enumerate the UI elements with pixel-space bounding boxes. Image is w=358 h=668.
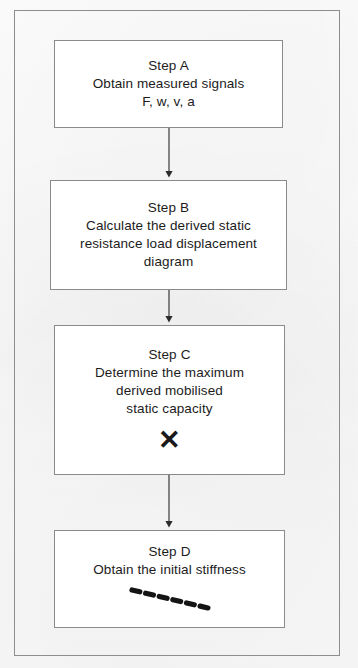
step-box-b: Step B Calculate the derived static resi…	[50, 180, 287, 290]
step-a-line-2: F, w, v, a	[142, 93, 195, 111]
step-b-line-3: diagram	[144, 253, 193, 271]
step-box-d: Step D Obtain the initial stiffness	[54, 530, 285, 628]
step-a-title: Step A	[148, 57, 189, 75]
step-d-line-1: Obtain the initial stiffness	[93, 561, 246, 579]
step-b-line-1: Calculate the derived static	[86, 217, 251, 235]
step-c-line-3: static capacity	[126, 400, 212, 418]
step-box-c: Step C Determine the maximum derived mob…	[54, 325, 285, 475]
step-c-line-2: derived mobilised	[116, 382, 223, 400]
step-b-line-2: resistance load displacement	[80, 235, 257, 253]
step-a-line-1: Obtain measured signals	[93, 75, 245, 93]
step-c-line-1: Determine the maximum	[95, 364, 244, 382]
step-c-title: Step C	[148, 346, 190, 364]
step-d-title: Step D	[148, 543, 190, 561]
step-box-a: Step A Obtain measured signals F, w, v, …	[54, 40, 283, 128]
flowchart-figure: Step A Obtain measured signals F, w, v, …	[0, 0, 358, 668]
step-b-title: Step B	[148, 199, 189, 217]
x-cross-icon: ✕	[158, 427, 181, 454]
dashed-line-icon	[128, 586, 212, 616]
